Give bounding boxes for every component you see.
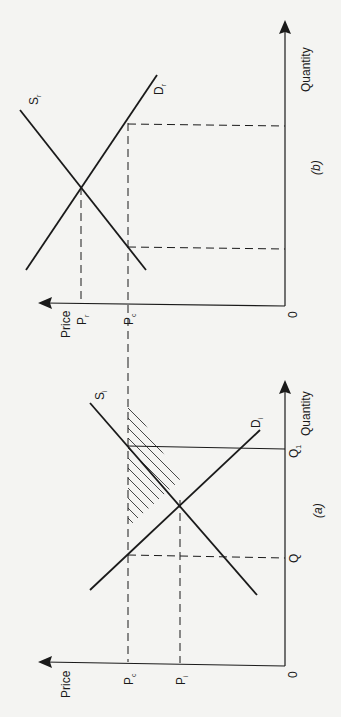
pc-q1-line: [128, 446, 285, 449]
price-axis-arrow-icon: [38, 297, 52, 309]
price-label-b: Price: [59, 310, 73, 338]
price-label-a: Price: [59, 670, 73, 698]
pc-label-a: Pc: [122, 673, 137, 685]
supply-demand-figure: Price Pr Pc 0 Quantity (b) Sr Dr: [0, 0, 341, 717]
dr-label: Dr: [152, 83, 167, 95]
caption-b: (b): [309, 160, 323, 175]
quantity-axis-arrow-icon: [279, 20, 291, 34]
demand-curve-dr: [26, 75, 157, 270]
panel-a: Price Pc Pi 0 Q Q1 Quantity (a) Si Di: [38, 360, 325, 698]
di-label: Di: [249, 417, 264, 428]
pr-label: Pr: [75, 314, 90, 325]
demand-curve-di: [90, 430, 260, 590]
quantity-label-b: Quantity: [299, 47, 313, 92]
origin-label-a: 0: [286, 671, 300, 678]
quantity-axis-arrow-icon: [279, 380, 291, 394]
origin-label-b: 0: [286, 311, 300, 318]
sr-label: Sr: [27, 94, 42, 105]
pi-label: Pi: [174, 675, 189, 685]
price-axis-arrow-icon: [38, 656, 52, 668]
si-label: Si: [93, 390, 108, 400]
caption-a: (a): [311, 503, 325, 518]
pc-q-guide: [128, 555, 285, 558]
qty-guide-low: [128, 247, 285, 249]
q1-label: Q1: [287, 445, 302, 458]
qty-guide-high: [128, 124, 285, 126]
price-axis-a: [44, 662, 285, 666]
supply-curve-sr: [20, 110, 146, 270]
price-axis-b: [44, 303, 285, 306]
panel-b: Price Pr Pc 0 Quantity (b) Sr Dr: [20, 20, 323, 360]
q-label: Q: [287, 554, 301, 563]
pc-label-b: Pc: [122, 313, 137, 325]
quantity-label-a: Quantity: [299, 391, 313, 436]
